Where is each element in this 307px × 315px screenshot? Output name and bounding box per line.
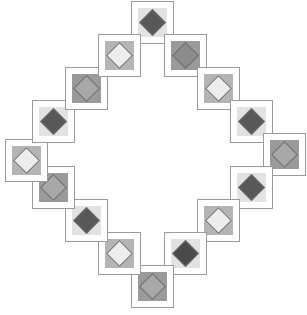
tile-diamond-icon xyxy=(73,75,100,102)
tile-diamond-icon xyxy=(238,174,265,201)
tile-inner-square xyxy=(171,41,200,70)
tile-diamond-icon xyxy=(238,108,265,135)
tile-inner-square xyxy=(237,173,266,202)
tile-inner-square xyxy=(171,239,200,268)
tile-diamond-icon xyxy=(139,9,166,36)
tile-left xyxy=(5,139,48,182)
tile-inner-square xyxy=(39,107,68,136)
tile-diamond-icon xyxy=(73,207,100,234)
tile-diamond-icon xyxy=(13,147,40,174)
tile-inner-square xyxy=(204,74,233,103)
tile-inner-square xyxy=(138,272,167,301)
tile-inner-square xyxy=(72,74,101,103)
tile-inner-square xyxy=(138,8,167,37)
tile-inner-square xyxy=(270,140,299,169)
tile-diamond-icon xyxy=(205,207,232,234)
tile-top-left-1 xyxy=(98,34,141,77)
tile-diamond-icon xyxy=(205,75,232,102)
tile-diamond-icon xyxy=(139,273,166,300)
tile-diamond-icon xyxy=(172,42,199,69)
tile-inner-square xyxy=(204,206,233,235)
tile-inner-square xyxy=(12,146,41,175)
tile-inner-square xyxy=(105,41,134,70)
tile-diamond-icon xyxy=(106,240,133,267)
tile-diamond-icon xyxy=(40,108,67,135)
tile-diamond-icon xyxy=(172,240,199,267)
tile-inner-square xyxy=(72,206,101,235)
tile-inner-square xyxy=(105,239,134,268)
pattern-canvas xyxy=(0,0,307,315)
tile-diamond-icon xyxy=(106,42,133,69)
tile-diamond-icon xyxy=(271,141,298,168)
tile-inner-square xyxy=(237,107,266,136)
